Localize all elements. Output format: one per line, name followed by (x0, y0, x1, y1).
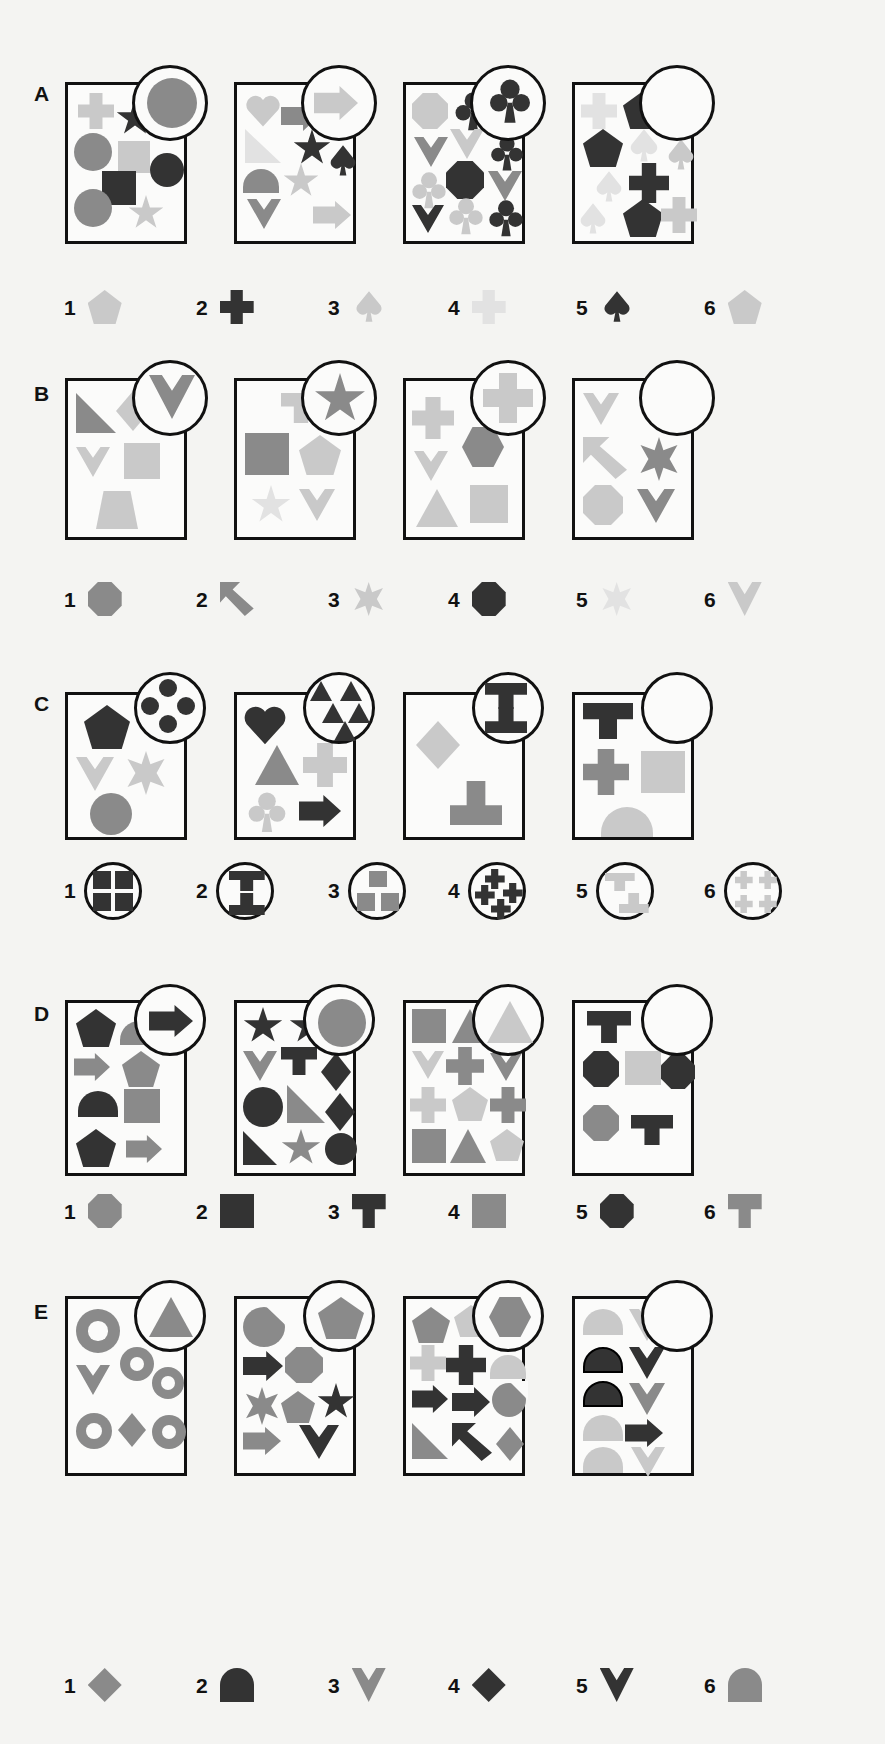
answer-option-glyph (596, 1664, 640, 1708)
shape-triangle (334, 721, 356, 741)
callout-bubble-empty[interactable] (641, 672, 713, 744)
shape-cross (503, 883, 523, 903)
callout-bubble-empty[interactable] (641, 984, 713, 1056)
callout-bubble[interactable] (132, 65, 208, 141)
answer-option-1[interactable]: 1 (64, 578, 128, 622)
answer-option-3[interactable]: 3 (328, 1664, 392, 1708)
answer-option-5[interactable]: 5 (576, 1190, 640, 1234)
answer-option-6[interactable]: 6 (704, 862, 782, 920)
answer-option-6[interactable]: 6 (704, 1190, 768, 1234)
answer-option-6[interactable]: 6 (704, 578, 768, 622)
answer-option-glyph (596, 578, 640, 622)
shape-circle (325, 1133, 357, 1165)
answer-option-2[interactable]: 2 (196, 578, 260, 622)
answer-option-1[interactable]: 1 (64, 1664, 128, 1708)
answer-option-5[interactable]: 5 (576, 286, 640, 330)
shape-pentagon (122, 1051, 160, 1087)
callout-bubble-empty[interactable] (639, 65, 715, 141)
shape-circle (177, 697, 195, 715)
answer-options-row: 123456 (0, 862, 885, 922)
shape-triangle (255, 745, 299, 785)
answer-option-2[interactable]: 2 (196, 1190, 260, 1234)
shape-semicircle (78, 1091, 118, 1117)
row-label-b: B (34, 382, 49, 406)
answer-option-2[interactable]: 2 (196, 286, 260, 330)
callout-bubble[interactable] (303, 1280, 375, 1352)
shape-cross (581, 93, 617, 129)
shape-spade (579, 201, 607, 237)
answer-option-4[interactable]: 4 (448, 286, 512, 330)
answer-option-number: 2 (196, 1200, 208, 1224)
shape-pentagon (84, 705, 130, 749)
answer-option-4[interactable]: 4 (448, 862, 526, 920)
answer-option-glyph (348, 286, 392, 330)
answer-option-4[interactable]: 4 (448, 578, 512, 622)
answer-option-1[interactable]: 1 (64, 862, 142, 920)
callout-bubble[interactable] (470, 360, 546, 436)
answer-option-number: 4 (448, 588, 460, 612)
answer-option-number: 2 (196, 1674, 208, 1698)
callout-bubble-empty[interactable] (639, 360, 715, 436)
callout-bubble[interactable] (472, 672, 544, 744)
shape-diamond (472, 1668, 506, 1702)
answer-option-number: 3 (328, 588, 340, 612)
shape-star5 (281, 1129, 321, 1167)
shape-diamond (416, 721, 460, 769)
callout-bubble-empty[interactable] (641, 1280, 713, 1352)
shape-cross (661, 197, 697, 233)
shape-square (472, 1194, 506, 1228)
callout-bubble[interactable] (301, 360, 377, 436)
shape-octagon (583, 485, 623, 525)
callout-bubble[interactable] (472, 984, 544, 1056)
shape-tee (352, 1194, 386, 1228)
answer-option-5[interactable]: 5 (576, 578, 640, 622)
shape-diamond (325, 1093, 355, 1131)
callout-bubble[interactable] (134, 984, 206, 1056)
shape-cross (490, 1087, 526, 1123)
shape-pentagon (623, 199, 663, 237)
shape-cross (629, 163, 669, 203)
shape-cross (412, 397, 454, 439)
answer-option-number: 5 (576, 296, 588, 320)
shape-square (220, 1194, 254, 1228)
answer-option-3[interactable]: 3 (328, 286, 392, 330)
answer-option-6[interactable]: 6 (704, 286, 768, 330)
answer-option-3[interactable]: 3 (328, 578, 392, 622)
shape-heart-d (629, 1347, 665, 1379)
callout-bubble[interactable] (301, 65, 377, 141)
shape-square (369, 871, 387, 887)
answer-option-2[interactable]: 2 (196, 1664, 260, 1708)
answer-option-5[interactable]: 5 (576, 1664, 640, 1708)
answer-option-3[interactable]: 3 (328, 862, 406, 920)
answer-option-3[interactable]: 3 (328, 1190, 392, 1234)
callout-bubble[interactable] (132, 360, 208, 436)
worksheet-sheet: A123456B123456C123456D123456E123456 (0, 0, 885, 1744)
shape-spade (595, 169, 623, 205)
answer-option-glyph (216, 1664, 260, 1708)
shape-heart (245, 93, 281, 127)
callout-bubble[interactable] (303, 984, 375, 1056)
answer-option-glyph (468, 1190, 512, 1234)
answer-option-5[interactable]: 5 (576, 862, 654, 920)
shape-spade (600, 290, 634, 324)
callout-bubble[interactable] (303, 672, 375, 744)
answer-option-number: 3 (328, 1200, 340, 1224)
answer-option-number: 6 (704, 879, 716, 903)
callout-bubble[interactable] (134, 1280, 206, 1352)
answer-option-1[interactable]: 1 (64, 286, 128, 330)
answer-option-6[interactable]: 6 (704, 1664, 768, 1708)
answer-option-2[interactable]: 2 (196, 862, 274, 920)
shape-octagon (88, 1194, 122, 1228)
callout-bubble[interactable] (134, 672, 206, 744)
callout-bubble[interactable] (470, 65, 546, 141)
shape-arrow (149, 1005, 193, 1037)
callout-bubble[interactable] (472, 1280, 544, 1352)
answer-option-4[interactable]: 4 (448, 1190, 512, 1234)
shape-trapezoid (96, 491, 138, 529)
shape-arrow (74, 1053, 110, 1081)
shape-star5 (251, 485, 291, 525)
answer-option-glyph (84, 286, 128, 330)
answer-option-1[interactable]: 1 (64, 1190, 128, 1234)
answer-option-4[interactable]: 4 (448, 1664, 512, 1708)
shape-pentagon (318, 1297, 364, 1339)
